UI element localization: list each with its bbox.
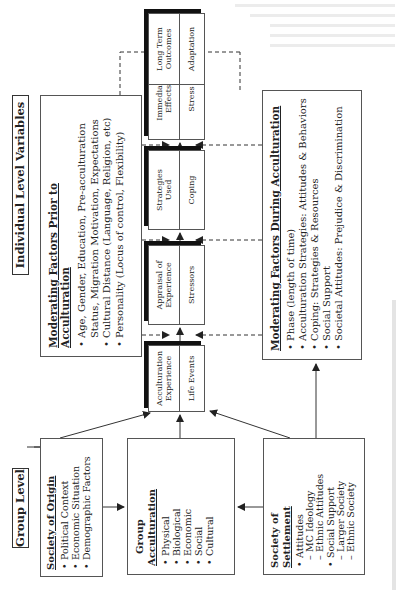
origin-item: Demographic Factors — [81, 445, 92, 570]
group-acculturation-item: Economic — [182, 447, 193, 566]
moderating-prior-title: Moderating Factors Prior to Acculturatio… — [47, 104, 71, 348]
chain-top-2: Experience — [164, 262, 174, 308]
group-level-label: Group Level — [12, 468, 29, 548]
group-acculturation-box: Group Acculturation Physical Biological … — [127, 438, 235, 575]
society-of-origin-title: Society of Origin — [45, 445, 57, 570]
acculturation-framework-diagram: Group Level Individual Level Variables S… — [0, 0, 398, 597]
group-acculturation-item: Physical — [160, 447, 171, 566]
chain-top-2: Experience — [164, 356, 174, 402]
moderating-prior-item: Age, Gender, Education, Pre-acculturatio… — [76, 104, 89, 348]
chain-bottom: Stressors — [187, 266, 196, 304]
chain-top-2: Used — [164, 180, 174, 201]
chain-box-acculturation-experience: Acculturation Experience Life Events — [148, 341, 209, 412]
group-acculturation-item: Cultural — [204, 447, 215, 566]
moderating-during-item: Societal Attitudes: Prejudice & Discrimi… — [333, 99, 345, 351]
group-acculturation-title-1: Group — [134, 447, 146, 566]
chain-bottom: Coping — [187, 176, 196, 205]
moderating-during-box: Moderating Factors During Acculturation … — [262, 90, 362, 360]
moderating-prior-item: Cultural Distance (Language, Religion, e… — [101, 104, 114, 348]
settlement-subitem: Ethnic Society — [346, 445, 356, 568]
chain-box-appraisal: Appraisal of Experience Stressors — [148, 241, 209, 325]
chain-top-1: Acculturation — [155, 351, 165, 406]
chain-top-1: Appraisal of — [155, 261, 165, 310]
chain-box-long-term-outcomes: Long Term Outcomes Adaptation — [148, 9, 209, 85]
moderating-during-title: Moderating Factors During Acculturation — [269, 99, 281, 351]
group-acculturation-item: Biological — [171, 447, 182, 566]
chain-top-2: Effects — [164, 85, 174, 113]
moderating-during-item: Social Support — [321, 99, 333, 351]
chain-top-2: Outcomes — [164, 29, 174, 70]
individual-level-text: Individual Level Variables — [13, 102, 27, 269]
origin-item: Political Context — [59, 445, 70, 570]
group-acculturation-title-2: Acculturation — [146, 447, 158, 566]
moderating-during-item: Phase (length of time) — [285, 99, 297, 351]
settlement-title-1: Society of — [269, 445, 281, 568]
chain-top-1: Long Term — [155, 27, 165, 71]
group-level-text: Group Level — [13, 469, 27, 547]
society-of-settlement-box: Society of Settlement Attitudes MC Ideol… — [263, 438, 365, 575]
group-acculturation-item: Social — [193, 447, 204, 566]
moderating-during-item: Acculturation Strategies: Attitudes & Be… — [297, 99, 309, 351]
chain-box-strategies: Strategies Used Coping — [148, 146, 209, 230]
chain-top-1: Strategies — [155, 169, 165, 211]
moderating-during-item: Coping: Strategies & Resources — [309, 99, 321, 351]
moderating-prior-item: Personality (Locus of control, Flexibili… — [114, 104, 127, 348]
settlement-title-2: Settlement — [281, 445, 293, 568]
moderating-prior-item: Status, Migration Motivation, Expectatio… — [89, 104, 102, 348]
chain-bottom: Stress — [187, 86, 196, 111]
society-of-origin-box: Society of Origin Political Context Econ… — [40, 438, 103, 577]
origin-item: Economic Situation — [70, 445, 81, 570]
moderating-prior-box: Moderating Factors Prior to Acculturatio… — [40, 95, 142, 357]
individual-level-label: Individual Level Variables — [12, 95, 29, 275]
chain-bottom: Adaptation — [187, 27, 196, 72]
chain-bottom: Life Events — [187, 356, 196, 402]
